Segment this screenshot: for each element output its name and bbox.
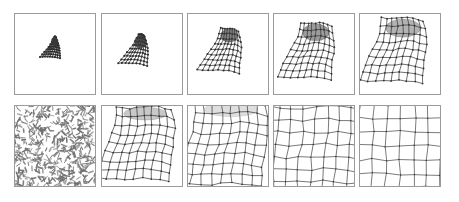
mesh-plot bbox=[360, 14, 440, 94]
panel-label: step-9 bbox=[360, 186, 361, 187]
mesh-plot bbox=[188, 106, 268, 186]
mesh-plot bbox=[15, 14, 95, 94]
panel-label: input-data bbox=[15, 186, 16, 187]
mesh-plot bbox=[274, 14, 354, 94]
figure-title: Self-organizing map grid unfolding seque… bbox=[0, 0, 1, 1]
panel-step-5: step-5 bbox=[359, 13, 441, 95]
panel-step-6: step-6 bbox=[101, 105, 183, 187]
panel-label: step-5 bbox=[360, 94, 361, 95]
panel-step-9: step-9 bbox=[359, 105, 441, 187]
panel-step-7: step-7 bbox=[187, 105, 269, 187]
panel-step-3: step-3 bbox=[187, 13, 269, 95]
panel-label: step-4 bbox=[274, 94, 275, 95]
mesh-plot bbox=[360, 106, 440, 186]
panel-input-data: input-data bbox=[14, 105, 96, 187]
mesh-plot bbox=[188, 14, 268, 94]
panel-step-8: step-8 bbox=[273, 105, 355, 187]
input-data-scatter bbox=[15, 106, 95, 186]
mesh-plot bbox=[274, 106, 354, 186]
panel-step-2: step-2 bbox=[101, 13, 183, 95]
panel-label: step-3 bbox=[188, 94, 189, 95]
figure-som-unfolding-sequence: Self-organizing map grid unfolding seque… bbox=[0, 0, 459, 202]
panel-step-4: step-4 bbox=[273, 13, 355, 95]
panel-label: step-1 bbox=[15, 94, 16, 95]
mesh-plot bbox=[102, 14, 182, 94]
panel-label: step-7 bbox=[188, 186, 189, 187]
mesh-plot bbox=[102, 106, 182, 186]
panel-label: step-8 bbox=[274, 186, 275, 187]
panel-label: step-6 bbox=[102, 186, 103, 187]
panel-label: step-2 bbox=[102, 94, 103, 95]
panel-step-1: step-1 bbox=[14, 13, 96, 95]
